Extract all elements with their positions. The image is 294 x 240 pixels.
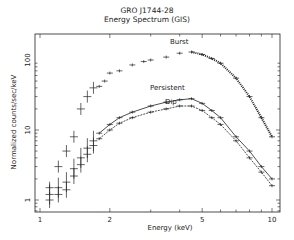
x-tick-label: 2 xyxy=(108,216,112,224)
y-tick-label: 10 xyxy=(24,126,32,135)
y-tick-label: 1 xyxy=(24,198,32,202)
trace-persistent xyxy=(99,99,272,179)
annotation-burst: Burst xyxy=(170,38,189,46)
x-tick-label: 1 xyxy=(38,216,42,224)
trace-burst xyxy=(192,52,272,137)
y-tick-label: 100 xyxy=(24,53,32,66)
x-tick-label: 10 xyxy=(268,216,277,224)
trace-dip xyxy=(99,106,272,186)
plot-area: 12510110100BurstPersistentDip xyxy=(0,0,294,240)
plot-frame xyxy=(35,34,280,212)
annotation-persistent: Persistent xyxy=(150,84,185,92)
x-tick-label: 5 xyxy=(200,216,204,224)
annotation-dip: Dip xyxy=(165,98,177,106)
